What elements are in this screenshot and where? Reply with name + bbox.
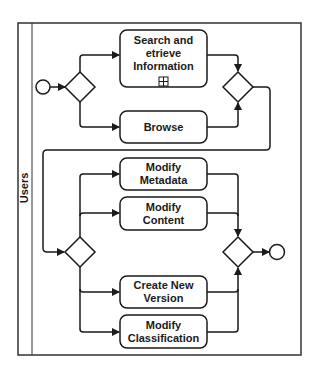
lane-label-users: Users: [18, 168, 32, 208]
task-label-modify-content: Modify Content: [120, 197, 207, 230]
task-label-modify-classification: Modify Classification: [120, 315, 207, 348]
task-label-modify-metadata: Modify Metadata: [120, 158, 207, 190]
task-label-search: Search and etrieve Information: [120, 31, 207, 76]
task-label-create-new-version: Create New Version: [120, 276, 207, 308]
start-event[interactable]: [36, 80, 50, 94]
task-label-browse: Browse: [120, 111, 207, 143]
subprocess-marker-icon: [159, 77, 168, 86]
end-event[interactable]: [270, 245, 285, 260]
